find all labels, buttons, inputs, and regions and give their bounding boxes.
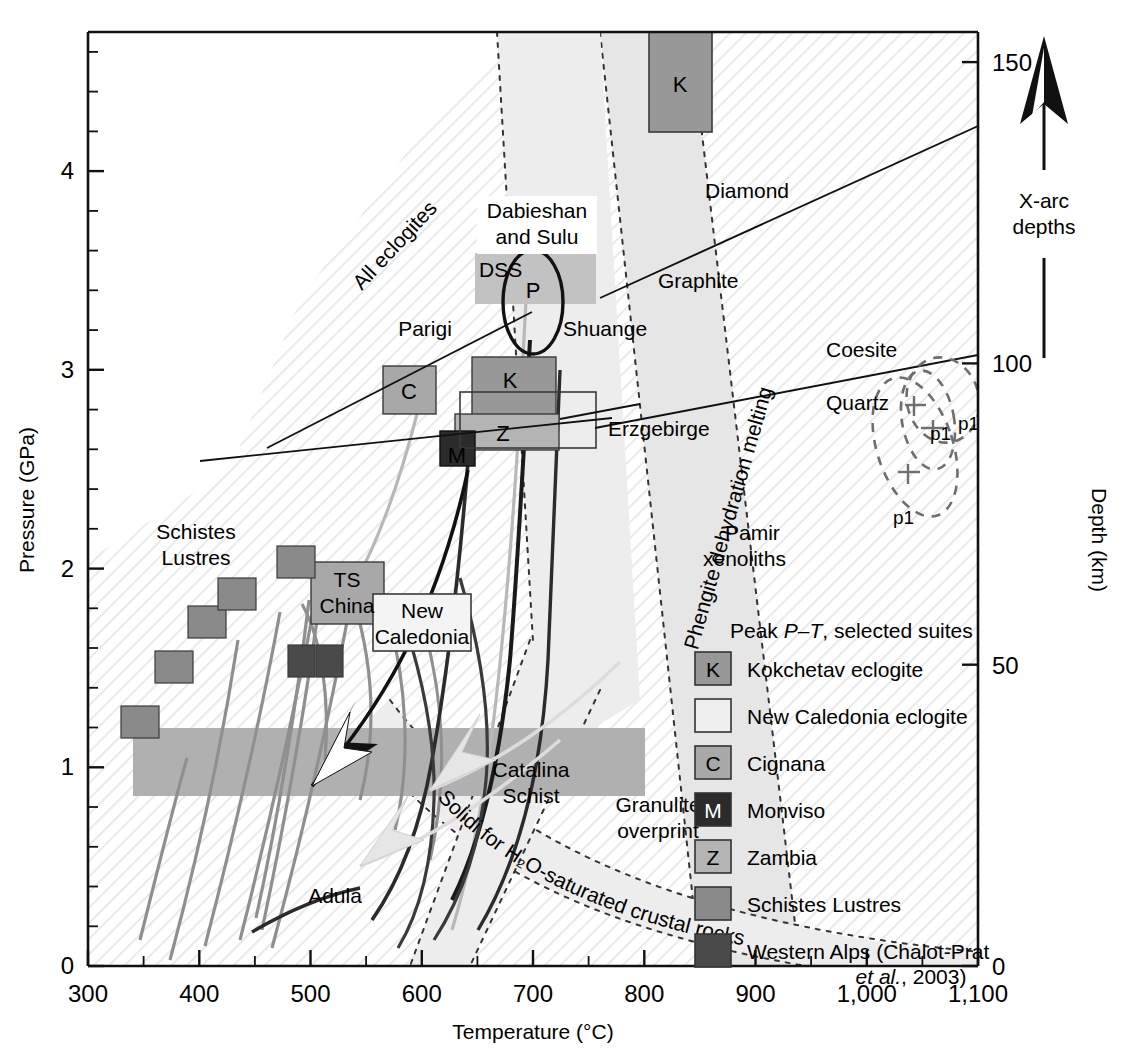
- label-coesite: Coesite: [826, 338, 897, 361]
- label-dss: DSS: [479, 258, 522, 281]
- y2-tick-label: 50: [992, 652, 1019, 679]
- x-tick-label: 600: [402, 980, 442, 1007]
- dabieshan-line1: Dabieshan: [487, 199, 587, 222]
- label-erzgebirge: Erzgebirge: [608, 417, 710, 440]
- y2-tick-label: 0: [992, 953, 1005, 980]
- legend-title-prefix: Peak: [730, 619, 784, 642]
- legend-swatch-symbol: C: [705, 752, 720, 775]
- ts-line1: TS: [334, 568, 361, 591]
- newcal-line1: New: [401, 599, 444, 622]
- ts-line2: China: [320, 594, 375, 617]
- label-diamond: Diamond: [705, 179, 789, 202]
- granulite-line1: Granulite: [615, 793, 700, 816]
- legend-swatch-symbol: M: [704, 799, 722, 822]
- catalina-line2: Schist: [502, 784, 559, 807]
- legend-swatch: [695, 934, 731, 967]
- y-tick-label: 1: [61, 753, 74, 780]
- legend-label: Monviso: [747, 799, 825, 822]
- x-axis-title: Temperature (°C): [452, 1020, 613, 1043]
- label-box-Z: Z: [496, 421, 509, 446]
- label-p1-a: p1: [930, 423, 951, 444]
- boxes-western-alps: [288, 645, 343, 677]
- y-axis-title: Pressure (GPa): [15, 427, 38, 573]
- legend-title-italic: P–T: [784, 619, 825, 642]
- label-p1-b: p1: [958, 413, 979, 434]
- catalina-line1: Catalina: [492, 758, 569, 781]
- pt-diagram: 01234 050100150 3004005006007008009001,0…: [0, 0, 1124, 1060]
- label-adula: Adula: [308, 884, 362, 907]
- legend-swatch-symbol: K: [706, 658, 720, 681]
- x-tick-label: 700: [513, 980, 553, 1007]
- legend-swatch-symbol: Z: [707, 846, 720, 869]
- granulite-line2: overprint: [617, 819, 699, 842]
- y2-tick-label: 150: [992, 49, 1032, 76]
- label-graphite: Graphite: [658, 269, 739, 292]
- schistes-line1: Schistes: [156, 520, 235, 543]
- label-box-K-upper: K: [673, 72, 688, 97]
- y2-axis-title: Depth (km): [1088, 488, 1111, 592]
- legend-label: Kokchetav eclogite: [747, 658, 923, 681]
- label-p1-c: p1: [893, 507, 914, 528]
- legend-swatch: [695, 699, 731, 732]
- legend-swatch: [695, 887, 731, 920]
- y-tick-label: 3: [61, 356, 74, 383]
- x-tick-label: 800: [624, 980, 664, 1007]
- xarc-label-line2: depths: [1012, 215, 1075, 238]
- x-tick-label: 300: [68, 980, 108, 1007]
- legend-label: Zambia: [747, 846, 817, 869]
- label-p-ellipse: P: [526, 278, 541, 303]
- label-shuange: Shuange: [563, 317, 647, 340]
- legend-title-suffix: , selected suites: [822, 619, 973, 642]
- dabieshan-line2: and Sulu: [496, 225, 579, 248]
- pamir-line2: xenoliths: [703, 547, 786, 570]
- y-tick-label: 4: [61, 157, 74, 184]
- x-tick-label: 400: [179, 980, 219, 1007]
- label-quartz: Quartz: [826, 391, 889, 414]
- figure-root: 01234 050100150 3004005006007008009001,0…: [0, 0, 1124, 1060]
- x-tick-label: 900: [735, 980, 775, 1007]
- x-tick-label: 500: [290, 980, 330, 1007]
- legend-label: Schistes Lustres: [747, 893, 901, 916]
- label-dabieshan-and-sulu: Dabieshan and Sulu: [477, 196, 597, 254]
- legend-title: Peak P–T, selected suites: [730, 619, 973, 642]
- xarc-label-line1: X-arc: [1019, 189, 1069, 212]
- legend-label-cont: et al., 2003): [856, 965, 967, 988]
- label-box-C: C: [401, 379, 417, 404]
- label-box-M: M: [448, 443, 466, 468]
- schistes-line2: Lustres: [162, 546, 231, 569]
- newcal-line2: Caledonia: [375, 625, 470, 648]
- label-parigi: Parigi: [398, 317, 452, 340]
- y-tick-label: 2: [61, 555, 74, 582]
- label-box-K-lower: K: [503, 368, 518, 393]
- legend-label: Cignana: [747, 752, 826, 775]
- y-tick-label: 0: [61, 952, 74, 979]
- pamir-line1: Pamir: [725, 521, 780, 544]
- legend-label: Western Alps (Chalot-Prat: [747, 940, 990, 963]
- y2-tick-label: 100: [992, 350, 1032, 377]
- legend-label: New Caledonia eclogite: [747, 705, 968, 728]
